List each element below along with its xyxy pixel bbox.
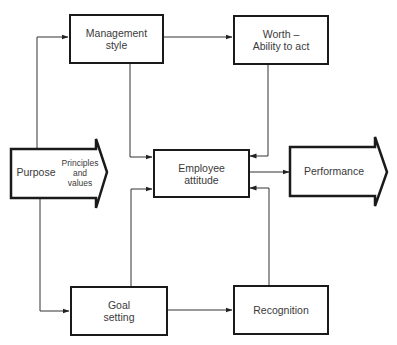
node-worth-line2: Ability to act — [253, 40, 310, 52]
node-goal-setting: Goal setting — [70, 286, 168, 336]
node-management-line2: style — [86, 39, 147, 51]
edge-recognition-employee — [250, 188, 269, 285]
node-recognition-label: Recognition — [253, 304, 308, 316]
node-goal-line1: Goal — [104, 299, 135, 311]
node-worth: Worth – Ability to act — [233, 15, 329, 65]
edge-worth-employee — [250, 64, 268, 156]
node-employee-line2: attitude — [178, 174, 225, 186]
node-performance-label: Performance — [292, 165, 376, 177]
node-management-style: Management style — [69, 14, 164, 64]
node-purpose-sub3: values — [58, 178, 102, 188]
edge-purpose-goal — [40, 198, 69, 311]
node-purpose-label: Purpose — [14, 166, 58, 178]
node-employee-line1: Employee — [178, 162, 225, 174]
node-purpose-sub1: Principles — [58, 158, 102, 168]
node-worth-line1: Worth – — [253, 28, 310, 40]
node-purpose-sub2: and — [58, 168, 102, 178]
node-recognition: Recognition — [233, 285, 329, 335]
edge-goal-employee — [131, 189, 152, 286]
edge-management-employee — [130, 63, 152, 157]
edge-purpose-management — [37, 37, 68, 149]
node-goal-line2: setting — [104, 311, 135, 323]
node-management-line1: Management — [86, 27, 147, 39]
node-employee-attitude: Employee attitude — [153, 149, 250, 198]
node-purpose-sublabel: Principles and values — [58, 158, 102, 188]
